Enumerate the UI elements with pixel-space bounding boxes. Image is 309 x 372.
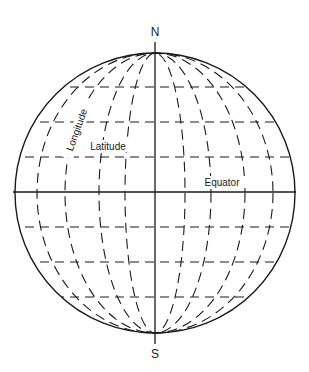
equator-label: Equator (204, 177, 240, 188)
north-label: N (151, 25, 160, 39)
latitude-label: Latitude (90, 141, 126, 152)
south-label: S (151, 347, 159, 361)
globe-diagram: N S Longitude Latitude Equator (0, 0, 309, 372)
longitude-label: Longitude (64, 107, 90, 152)
